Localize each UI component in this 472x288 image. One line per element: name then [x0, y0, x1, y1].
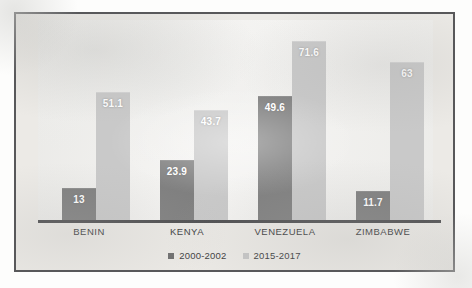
category-label-venezuela: VENEZUELA	[238, 226, 332, 237]
category-label-benin: BENIN	[42, 226, 136, 237]
bar-label-zimbabwe-2000-2002: 11.7	[356, 197, 390, 208]
bar-benin-2000-2002[interactable]: 13	[62, 188, 96, 220]
bar-label-venezuela-2000-2002: 49.6	[258, 102, 292, 113]
bar-venezuela-2015-2017[interactable]: 71.6	[292, 41, 326, 220]
bar-group-kenya: 23.9 43.7	[140, 20, 234, 220]
plot-area: 13 51.1 23.9 43.7 49.6	[38, 20, 433, 220]
chart-legend: 2000-2002 2015-2017	[16, 250, 453, 261]
bar-group-benin: 13 51.1	[42, 20, 136, 220]
bar-label-benin-2015-2017: 51.1	[96, 98, 130, 109]
bar-label-venezuela-2015-2017: 71.6	[292, 47, 326, 58]
chart-frame: 13 51.1 23.9 43.7 49.6	[14, 12, 455, 272]
bar-group-venezuela: 49.6 71.6	[238, 20, 332, 220]
bar-label-zimbabwe-2015-2017: 63	[390, 68, 424, 79]
bar-kenya-2015-2017[interactable]: 43.7	[194, 110, 228, 220]
bar-kenya-2000-2002[interactable]: 23.9	[160, 160, 194, 220]
legend-swatch-icon-2015-2017	[243, 253, 249, 259]
bar-group-zimbabwe: 11.7 63	[336, 20, 430, 220]
bar-zimbabwe-2015-2017[interactable]: 63	[390, 62, 424, 220]
legend-entry-2015-2017[interactable]: 2015-2017	[243, 250, 301, 261]
bar-venezuela-2000-2002[interactable]: 49.6	[258, 96, 292, 220]
legend-label-2015-2017: 2015-2017	[254, 250, 301, 261]
legend-label-2000-2002: 2000-2002	[179, 250, 226, 261]
category-label-zimbabwe: ZIMBABWE	[336, 226, 430, 237]
legend-entry-2000-2002[interactable]: 2000-2002	[168, 250, 226, 261]
legend-swatch-icon-2000-2002	[168, 253, 174, 259]
bar-benin-2015-2017[interactable]: 51.1	[96, 92, 130, 220]
bar-zimbabwe-2000-2002[interactable]: 11.7	[356, 191, 390, 220]
category-axis-line	[38, 220, 441, 223]
bar-label-kenya-2000-2002: 23.9	[160, 166, 194, 177]
chart-figure: 13 51.1 23.9 43.7 49.6	[0, 0, 472, 288]
category-axis-labels: BENIN KENYA VENEZUELA ZIMBABWE	[38, 226, 433, 244]
bar-label-benin-2000-2002: 13	[62, 194, 96, 205]
bar-label-kenya-2015-2017: 43.7	[194, 116, 228, 127]
category-label-kenya: KENYA	[140, 226, 234, 237]
